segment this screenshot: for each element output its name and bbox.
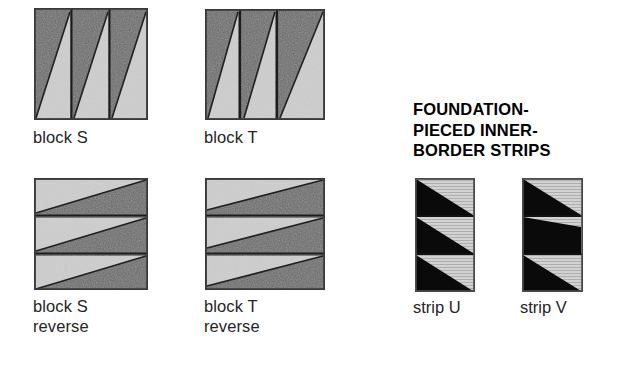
strip-u-swatch xyxy=(415,178,475,292)
quilting-diagram: block S block T xyxy=(0,0,622,368)
block-t-reverse-artwork xyxy=(205,178,325,290)
block-t-reverse-swatch xyxy=(205,178,325,290)
page-title: FOUNDATION- PIECED INNER- BORDER STRIPS xyxy=(413,99,551,161)
strip-u-artwork xyxy=(415,178,475,292)
caption-block-s-reverse: block S reverse xyxy=(33,296,89,336)
caption-block-t: block T xyxy=(204,128,258,147)
caption-strip-v: strip V xyxy=(520,298,567,317)
block-t-swatch xyxy=(205,9,325,120)
strip-v-swatch xyxy=(522,178,583,292)
block-s-reverse-swatch xyxy=(34,178,148,290)
block-s-artwork xyxy=(34,8,148,120)
block-s-swatch xyxy=(34,8,148,120)
caption-strip-u: strip U xyxy=(413,298,461,317)
caption-block-s: block S xyxy=(33,128,88,147)
strip-v-artwork xyxy=(522,178,583,292)
caption-block-t-reverse: block T reverse xyxy=(204,296,260,336)
block-s-reverse-artwork xyxy=(34,178,148,290)
block-t-artwork xyxy=(205,9,325,120)
